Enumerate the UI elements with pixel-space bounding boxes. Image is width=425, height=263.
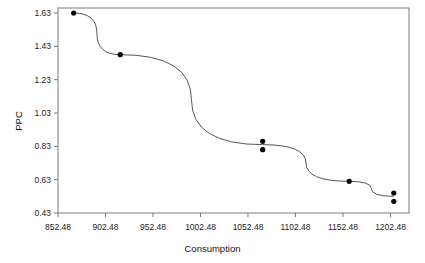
x-tick-label: 1102.48 — [280, 223, 310, 232]
y-tick-label: 0.83 — [18, 142, 51, 151]
x-tick-label: 1152.48 — [328, 223, 358, 232]
y-tick-label: 0.43 — [18, 209, 51, 218]
data-points — [71, 10, 396, 204]
y-axis-title: PPC — [13, 111, 24, 131]
x-tick-label: 1052.48 — [233, 223, 264, 232]
x-tick-label: 952.48 — [140, 223, 166, 232]
y-tick-label: 1.43 — [18, 42, 51, 51]
plot-frame — [58, 8, 409, 213]
ppc-consumption-chart: 0.430.630.831.031.231.431.63 852.48902.4… — [0, 0, 425, 263]
y-tick-label: 1.63 — [18, 9, 51, 18]
y-tick-label: 1.23 — [18, 75, 51, 84]
x-tick-label: 1002.48 — [185, 223, 216, 232]
data-line — [74, 13, 394, 196]
x-tick-label: 902.48 — [93, 223, 119, 232]
x-tick-label: 1202.48 — [375, 223, 406, 232]
x-axis-title: Consumption — [0, 243, 425, 254]
x-axis-ticks — [58, 213, 390, 217]
x-tick-label: 852.48 — [45, 223, 71, 232]
y-tick-label: 0.63 — [18, 175, 51, 184]
y-axis-ticks — [54, 13, 58, 213]
